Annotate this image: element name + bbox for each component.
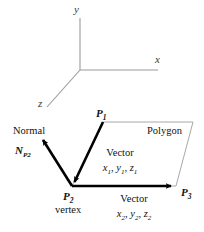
v2-y-sub: 2	[135, 214, 139, 222]
z-axis-label: z	[38, 98, 42, 109]
vector-2-components: x2, y2, z2	[117, 209, 151, 220]
vector-2-label: Vector	[120, 194, 147, 205]
coordinate-axes	[47, 18, 158, 107]
z-axis-line	[47, 70, 80, 107]
normal-symbol-sub: P2	[23, 151, 31, 159]
vector-1-arrow	[75, 122, 104, 182]
normal-text-label: Normal	[13, 126, 45, 137]
v1-x-base: x	[103, 162, 108, 173]
polygon-normal-figure: y x z Normal NP2 P1 P2 vertex P3 Polygon…	[0, 0, 204, 232]
v2-z-sub: 2	[148, 214, 152, 222]
v1-y-sub: 1	[121, 168, 125, 176]
polygon-label: Polygon	[147, 126, 182, 137]
point-p1-base: P	[96, 107, 103, 119]
x-axis-label: x	[155, 54, 160, 65]
normal-symbol-base: N	[15, 144, 23, 156]
point-p3-label: P3	[181, 187, 191, 198]
vector-1-label: Vector	[106, 148, 133, 159]
normal-vector-arrow	[43, 140, 72, 186]
point-p3-sub: 3	[188, 192, 192, 201]
normal-symbol-label: NP2	[15, 145, 31, 156]
v1-x-sub: 1	[107, 168, 111, 176]
point-p2-role-label: vertex	[55, 205, 81, 216]
y-axis-label: y	[74, 4, 79, 15]
point-p2-base: P	[63, 190, 70, 202]
point-p1-label: P1	[96, 108, 106, 119]
point-p1-sub: 1	[103, 113, 107, 122]
vector-1-components: x1, y1, z1	[103, 163, 137, 174]
v1-z-sub: 1	[134, 168, 138, 176]
v2-x-base: x	[117, 208, 122, 219]
v2-x-sub: 2	[121, 214, 125, 222]
point-p2-label: P2	[63, 191, 73, 202]
point-p3-base: P	[181, 186, 188, 198]
